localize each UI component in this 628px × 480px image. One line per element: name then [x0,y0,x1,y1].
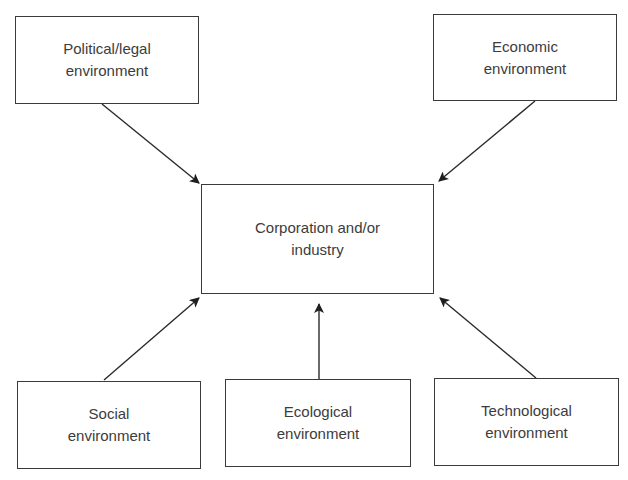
node-social-environment: Social environment [17,381,201,469]
center-label: Corporation and/or industry [255,217,380,261]
arrow-political-to-center [102,104,199,183]
node-label: Social environment [68,403,151,447]
node-label: Political/legal environment [63,38,151,82]
node-technological-environment: Technological environment [434,378,619,466]
node-label: Technological environment [481,400,572,444]
arrow-economic-to-center [439,101,535,181]
node-label: Ecological environment [277,401,360,445]
node-ecological-environment: Ecological environment [225,379,411,467]
node-economic-environment: Economic environment [433,14,617,101]
arrow-technological-to-center [440,298,536,378]
node-political-legal-environment: Political/legal environment [15,16,199,104]
node-label: Economic environment [484,36,567,80]
node-corporation-industry: Corporation and/or industry [201,184,434,294]
arrow-social-to-center [104,298,199,380]
